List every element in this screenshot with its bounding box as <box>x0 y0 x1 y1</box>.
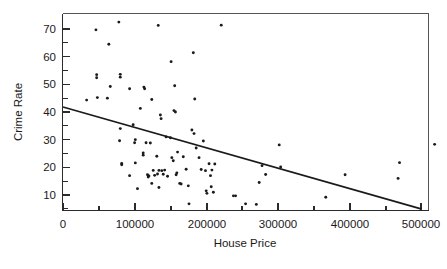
x-axis-ticks <box>63 203 421 211</box>
data-point <box>190 129 193 132</box>
data-point <box>433 143 436 146</box>
data-point <box>264 173 267 176</box>
data-point <box>133 141 136 144</box>
data-point <box>106 97 109 100</box>
data-point <box>150 98 153 101</box>
data-point <box>136 187 139 190</box>
data-point <box>107 43 110 46</box>
regression-trend-line <box>63 107 421 209</box>
data-point <box>187 184 190 187</box>
data-point <box>163 169 166 172</box>
data-point <box>213 163 216 166</box>
data-point <box>118 139 121 142</box>
data-point <box>157 169 160 172</box>
data-point <box>244 202 247 205</box>
data-point <box>166 175 169 178</box>
data-point <box>139 107 142 110</box>
data-point <box>198 156 201 159</box>
data-point <box>160 169 163 172</box>
x-axis-title: House Price <box>214 237 277 249</box>
data-point <box>109 85 112 88</box>
y-tick-label: 10 <box>43 189 56 201</box>
data-point <box>175 171 178 174</box>
data-point <box>344 173 347 176</box>
data-point <box>185 168 188 171</box>
trend-line-group <box>63 107 421 209</box>
x-tick-label: 400000 <box>331 218 369 230</box>
data-point <box>195 147 198 150</box>
data-point <box>208 162 211 165</box>
y-tick-label: 20 <box>43 161 56 173</box>
data-point <box>134 138 137 141</box>
x-axis-tick-labels: 0 100000 200000 300000 400000 500000 <box>60 218 440 230</box>
data-point <box>119 76 122 79</box>
data-point <box>128 87 131 90</box>
data-point <box>324 196 327 199</box>
data-point <box>193 132 196 135</box>
data-point <box>204 169 207 172</box>
data-point <box>94 28 97 31</box>
data-point <box>145 141 148 144</box>
data-point <box>205 192 208 195</box>
x-tick-label: 100000 <box>116 218 154 230</box>
data-point <box>172 159 175 162</box>
scatter-chart-figure: 70 60 50 40 30 20 10 0 100000 200000 300… <box>0 0 447 269</box>
data-point <box>160 117 163 120</box>
data-point <box>234 194 237 197</box>
data-point <box>170 156 173 159</box>
plot-axes <box>63 14 429 211</box>
data-point <box>149 142 152 145</box>
x-tick-label: 200000 <box>188 218 226 230</box>
data-point <box>96 96 99 99</box>
data-point <box>157 186 160 189</box>
data-point <box>182 155 185 158</box>
data-point <box>188 202 191 205</box>
data-point <box>162 173 165 176</box>
data-point <box>117 21 120 24</box>
y-tick-label: 60 <box>43 51 56 63</box>
y-tick-label: 40 <box>43 106 56 118</box>
data-point <box>173 84 176 87</box>
data-point <box>155 155 158 158</box>
x-tick-label: 500000 <box>402 218 440 230</box>
data-point <box>210 185 213 188</box>
data-point <box>120 163 123 166</box>
data-point <box>174 111 177 114</box>
data-point <box>95 76 98 79</box>
x-tick-label: 300000 <box>259 218 297 230</box>
y-tick-label: 70 <box>43 23 56 35</box>
data-point <box>156 173 159 176</box>
data-point <box>255 203 258 206</box>
chart-canvas: 70 60 50 40 30 20 10 0 100000 200000 300… <box>0 0 447 269</box>
y-tick-label: 30 <box>43 134 56 146</box>
data-point <box>85 99 88 102</box>
data-point <box>159 114 162 117</box>
y-axis-tick-labels: 70 60 50 40 30 20 10 <box>43 23 56 201</box>
data-point <box>134 161 137 164</box>
data-point <box>192 51 195 54</box>
data-point <box>170 60 173 63</box>
y-axis-title: Crime Rate <box>12 83 24 141</box>
data-point <box>147 174 150 177</box>
data-point <box>180 182 183 185</box>
data-point <box>143 87 146 90</box>
y-axis-ticks <box>63 29 71 209</box>
data-point <box>142 154 145 157</box>
data-point <box>153 174 156 177</box>
data-point <box>210 169 213 172</box>
data-point <box>398 161 401 164</box>
data-point <box>202 140 205 143</box>
scatter-points-group <box>85 21 436 206</box>
data-point <box>95 73 98 76</box>
data-point <box>205 189 208 192</box>
data-point <box>258 181 261 184</box>
y-tick-label: 50 <box>43 78 56 90</box>
x-tick-label: 0 <box>60 218 66 230</box>
data-point <box>176 151 179 154</box>
data-point <box>212 191 215 194</box>
data-point <box>193 98 196 101</box>
data-point <box>220 24 223 27</box>
data-point <box>128 174 131 177</box>
data-point <box>209 174 212 177</box>
data-point <box>278 143 281 146</box>
